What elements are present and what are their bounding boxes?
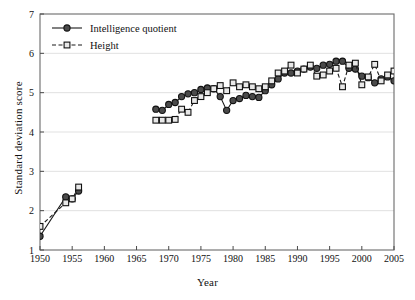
data-point <box>230 80 236 86</box>
x-axis-title: Year <box>0 276 415 288</box>
data-point <box>185 91 191 97</box>
x-tick-label: 1980 <box>223 253 243 264</box>
data-point <box>269 78 275 84</box>
data-point <box>76 184 82 190</box>
data-point <box>256 94 262 100</box>
legend-marker <box>64 42 70 48</box>
y-tick-label: 5 <box>29 87 34 98</box>
data-point <box>204 90 210 96</box>
data-point <box>372 80 378 86</box>
data-point <box>295 70 301 76</box>
legend-marker <box>64 25 70 31</box>
data-point <box>211 86 217 92</box>
data-point <box>339 58 345 64</box>
data-point <box>198 94 204 100</box>
data-point <box>314 65 320 71</box>
data-point <box>352 60 358 66</box>
data-point <box>346 62 352 68</box>
data-point <box>217 94 223 100</box>
y-tick-label: 6 <box>29 48 34 59</box>
data-point <box>224 88 230 94</box>
data-point <box>359 82 365 88</box>
data-point <box>172 99 178 105</box>
x-tick-label: 2000 <box>352 253 372 264</box>
data-point <box>249 94 255 100</box>
x-tick-label: 1965 <box>127 253 147 264</box>
data-point <box>69 196 75 202</box>
data-point <box>243 92 249 98</box>
data-point <box>288 62 294 68</box>
data-point <box>250 84 256 90</box>
x-tick-label: 1985 <box>255 253 275 264</box>
data-point <box>172 117 178 123</box>
data-point <box>320 62 326 68</box>
data-point <box>301 66 307 72</box>
data-point <box>179 94 185 100</box>
line-chart: 1234567195019551960196519701975198019851… <box>0 0 415 300</box>
data-point <box>236 95 242 101</box>
data-point <box>365 74 371 80</box>
data-point <box>63 200 69 206</box>
data-point <box>153 117 159 123</box>
data-point <box>37 224 43 230</box>
data-point <box>224 107 230 113</box>
data-point <box>282 68 288 74</box>
data-point <box>391 68 397 74</box>
data-point <box>185 109 191 115</box>
x-tick-label: 1970 <box>159 253 179 264</box>
data-point <box>378 78 384 84</box>
data-point <box>217 83 223 89</box>
data-point <box>166 117 172 123</box>
data-point <box>230 97 236 103</box>
data-point <box>385 72 391 78</box>
x-tick-label: 1950 <box>30 253 50 264</box>
x-tick-label: 2005 <box>384 253 404 264</box>
data-point <box>179 106 185 112</box>
data-point <box>372 61 378 67</box>
x-tick-label: 1990 <box>287 253 307 264</box>
y-tick-label: 3 <box>29 166 34 177</box>
y-tick-label: 4 <box>29 127 34 138</box>
data-point <box>314 73 320 79</box>
data-point <box>333 58 339 64</box>
data-point <box>191 90 197 96</box>
data-point <box>275 70 281 76</box>
data-point <box>288 70 294 76</box>
data-point <box>37 233 43 239</box>
data-point <box>237 84 243 90</box>
data-point <box>198 86 204 92</box>
y-tick-label: 7 <box>29 9 34 20</box>
data-point <box>159 107 165 113</box>
data-point <box>320 72 326 78</box>
data-point <box>391 78 397 84</box>
x-tick-label: 1955 <box>62 253 82 264</box>
data-point <box>262 84 268 90</box>
y-tick-label: 2 <box>29 205 34 216</box>
y-axis-title: Standard deviation score <box>12 58 24 218</box>
x-tick-label: 1975 <box>191 253 211 264</box>
x-tick-label: 1995 <box>320 253 340 264</box>
data-point <box>166 101 172 107</box>
data-point <box>159 117 165 123</box>
data-point <box>63 194 69 200</box>
data-point <box>243 82 249 88</box>
data-point <box>333 65 339 71</box>
data-point <box>340 84 346 90</box>
data-point <box>153 106 159 112</box>
data-point <box>275 76 281 82</box>
data-point <box>192 98 198 104</box>
legend-label: Height <box>90 40 119 51</box>
chart-container: 1234567195019551960196519701975198019851… <box>0 0 415 300</box>
data-point <box>256 86 262 92</box>
data-point <box>327 61 333 67</box>
data-point <box>307 62 313 68</box>
legend-label: Intelligence quotient <box>90 23 177 34</box>
data-point <box>327 68 333 74</box>
x-tick-label: 1960 <box>94 253 114 264</box>
